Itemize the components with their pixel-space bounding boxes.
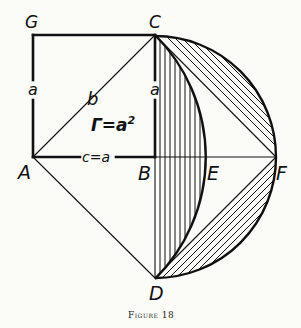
label-side-c-equals-a: c=a (82, 149, 110, 165)
diagonal-hatching-top (155, 25, 301, 170)
point-label-d: D (149, 282, 164, 304)
point-label-g: G (25, 12, 38, 32)
point-label-e: E (207, 162, 219, 184)
label-side-a-left: a (28, 80, 38, 99)
point-label-b: B (138, 162, 151, 184)
vertical-hatching (160, 30, 200, 290)
point-label-a: A (16, 161, 31, 183)
label-area-gamma: Γ=a2 (91, 114, 136, 135)
point-label-f: F (276, 162, 288, 184)
label-side-a-right: a (150, 80, 160, 99)
figure-18-diagram: G C A B E F D a a b c=a Γ=a2 Figure 18 (0, 0, 301, 328)
figure-caption: Figure 18 (128, 310, 174, 320)
line-ad (33, 157, 155, 278)
label-diagonal-b: b (87, 88, 98, 109)
point-label-c: C (149, 12, 161, 32)
